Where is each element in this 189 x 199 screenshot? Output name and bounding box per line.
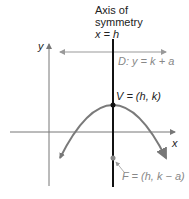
axis-title-2: symmetry	[95, 16, 143, 28]
focus-label: F = (h, k − a)	[122, 170, 185, 182]
focus-point	[111, 156, 116, 161]
axis-title-3: x = h	[95, 28, 119, 40]
y-axis-label: y	[38, 40, 44, 52]
x-axis-label: x	[172, 137, 178, 149]
axis-title-1: Axis of	[95, 4, 128, 16]
vertex-label: V = (h, k)	[116, 90, 161, 102]
directrix-label: D: y = k + a	[118, 55, 174, 67]
vertex-point	[111, 103, 116, 108]
